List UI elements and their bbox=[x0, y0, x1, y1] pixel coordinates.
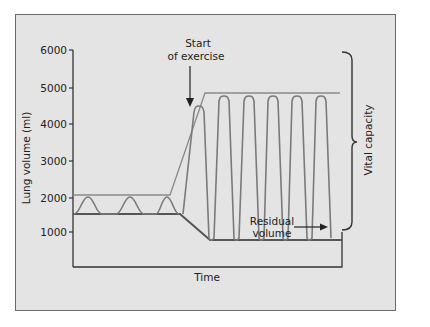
residual-label-line2: volume bbox=[253, 227, 292, 239]
residual-volume-annotation: Residual volume bbox=[250, 215, 328, 239]
y-tick-4000: 4000 bbox=[40, 118, 67, 130]
start-of-exercise-annotation: Start of exercise bbox=[168, 37, 225, 107]
arrow-right-icon bbox=[320, 224, 328, 231]
x-axis-label: Time bbox=[193, 271, 220, 283]
lung-volume-diagram: 6000 5000 4000 3000 2000 1000 Lung volum… bbox=[0, 0, 430, 327]
residual-label-line1: Residual bbox=[250, 215, 294, 227]
resting-tidal-trace bbox=[74, 197, 179, 214]
start-label-line2: of exercise bbox=[168, 50, 225, 62]
arrow-down-icon bbox=[186, 98, 194, 107]
y-tick-1000: 1000 bbox=[40, 226, 67, 238]
y-tick-5000: 5000 bbox=[40, 82, 67, 94]
y-tick-labels: 6000 5000 4000 3000 2000 1000 bbox=[40, 44, 67, 238]
start-label-line1: Start bbox=[185, 37, 211, 49]
y-tick-2000: 2000 bbox=[40, 192, 67, 204]
y-tick-6000: 6000 bbox=[40, 44, 67, 56]
vital-capacity-label: Vital capacity bbox=[362, 104, 374, 175]
y-tick-3000: 3000 bbox=[40, 155, 67, 167]
brace-icon bbox=[342, 52, 357, 230]
vital-capacity-brace: Vital capacity bbox=[342, 52, 374, 230]
y-axis-label: Lung volume (ml) bbox=[20, 112, 32, 205]
